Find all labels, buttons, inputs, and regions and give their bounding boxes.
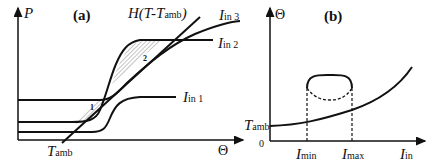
curve-iin2 bbox=[18, 40, 213, 122]
theta-axis-b-label: Θ bbox=[275, 8, 285, 22]
region-1-label: 1 bbox=[90, 104, 94, 112]
panel-a-label: (a) bbox=[73, 8, 91, 23]
panel-a bbox=[18, 8, 243, 143]
region-2-label: 2 bbox=[143, 55, 147, 63]
region-2-hatch bbox=[112, 40, 163, 84]
iin2-label: Iin 2 bbox=[218, 36, 238, 51]
tamb-tick-b: Tamb bbox=[244, 118, 270, 133]
imin-label: Imin bbox=[296, 147, 317, 162]
diagram-canvas bbox=[0, 0, 441, 167]
dome-lower bbox=[307, 88, 352, 100]
iin1-label: Iin 1 bbox=[183, 90, 203, 105]
tamb-tick-a: Tamb bbox=[47, 144, 73, 159]
p-axis-label: P bbox=[24, 6, 33, 21]
panel-b bbox=[270, 8, 425, 141]
imax-label: Imax bbox=[342, 147, 364, 162]
panel-b-label: (b) bbox=[324, 9, 342, 24]
theta-axis-a-label: Θ bbox=[218, 144, 228, 158]
dome-upper bbox=[307, 75, 352, 88]
origin-label: 0 bbox=[259, 139, 264, 149]
heat-loss-label: H(T-Tamb) bbox=[128, 6, 187, 21]
iin3-label: Iin 3 bbox=[219, 8, 239, 23]
iin-axis-label: Iin bbox=[400, 147, 413, 162]
